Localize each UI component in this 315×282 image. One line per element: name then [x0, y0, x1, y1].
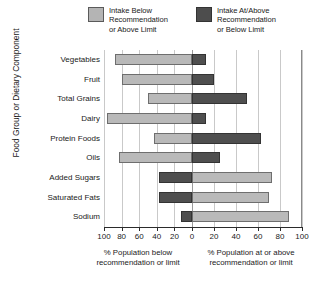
legend-item-intake-at-above: Intake At/Above Recommendation or Below …: [196, 6, 276, 34]
y-tick-label-dairy: Dairy: [18, 114, 100, 124]
x-tick-0: [192, 227, 193, 231]
bar-segment-left: [148, 93, 192, 104]
bar-segment-right: [192, 113, 206, 124]
x-tick-100: [302, 227, 303, 231]
x-axis-line: [104, 227, 302, 228]
legend-swatch-dark-gray-icon: [196, 7, 212, 22]
y-tick-label-protein-foods: Protein Foods: [18, 134, 100, 144]
bar-row: [104, 70, 302, 90]
bar-row: [104, 188, 302, 208]
bar-segment-left: [119, 152, 192, 163]
bar-row: [104, 89, 302, 109]
bar-row: [104, 50, 302, 70]
bar-segment-right: [192, 133, 261, 144]
x-tick--40: [157, 227, 158, 231]
x-tick-20: [214, 227, 215, 231]
x-tick-label-10: 100: [289, 232, 315, 241]
bar-segment-right: [192, 74, 214, 85]
y-axis-tick-labels: VegetablesFruitTotal GrainsDairyProtein …: [20, 50, 102, 227]
bar-segment-left: [115, 54, 192, 65]
chart-legend: Intake Below Recommendation or Above Lim…: [0, 2, 315, 44]
x-tick-40: [236, 227, 237, 231]
x-axis-caption-left: % Population below recommendation or lim…: [86, 248, 190, 267]
bar-row: [104, 109, 302, 129]
bar-segment-right: [192, 172, 272, 183]
bar-segment-right: [192, 93, 247, 104]
bar-segment-left: [154, 133, 192, 144]
chart-figure: Intake Below Recommendation or Above Lim…: [0, 0, 315, 282]
bar-segment-left: [159, 172, 192, 183]
bar-segment-right: [192, 54, 206, 65]
x-tick--80: [122, 227, 123, 231]
bar-segment-right: [192, 152, 220, 163]
x-axis-tick-labels: 10080604020020406080100: [104, 232, 302, 243]
x-tick-80: [280, 227, 281, 231]
y-tick-label-added-sugars: Added Sugars: [18, 173, 100, 183]
legend-label-intake-below: Intake Below Recommendation or Above Lim…: [109, 6, 168, 34]
bar-segment-right: [192, 192, 269, 203]
y-tick-label-oils: Oils: [18, 153, 100, 163]
y-tick-label-fruit: Fruit: [18, 75, 100, 85]
x-tick--20: [174, 227, 175, 231]
y-tick-label-total-grains: Total Grains: [18, 94, 100, 104]
y-tick-label-vegetables: Vegetables: [18, 55, 100, 65]
bar-segment-right: [192, 211, 289, 222]
bar-segment-left: [122, 74, 192, 85]
bar-segment-left: [181, 211, 192, 222]
x-tick--60: [139, 227, 140, 231]
bar-segment-left: [107, 113, 192, 124]
bar-row: [104, 168, 302, 188]
y-tick-label-saturated-fats: Saturated Fats: [18, 193, 100, 203]
legend-swatch-light-gray-icon: [88, 7, 104, 22]
x-tick--100: [104, 227, 105, 231]
gridline-100: [302, 50, 303, 227]
x-tick-60: [258, 227, 259, 231]
x-axis-caption-right: % Population at or above recommendation …: [196, 248, 306, 267]
bar-segment-left: [159, 192, 192, 203]
plot-area: [104, 50, 302, 227]
bar-row: [104, 148, 302, 168]
legend-item-intake-below: Intake Below Recommendation or Above Lim…: [88, 6, 168, 34]
legend-label-intake-at-above: Intake At/Above Recommendation or Below …: [217, 6, 276, 34]
y-tick-label-sodium: Sodium: [18, 212, 100, 222]
bar-row: [104, 129, 302, 149]
bar-row: [104, 207, 302, 227]
